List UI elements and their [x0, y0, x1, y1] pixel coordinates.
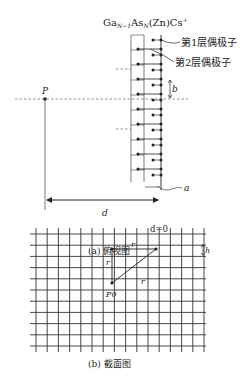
p0-label: P0	[105, 290, 116, 299]
cell-dividers	[131, 35, 144, 170]
caption-top-view: (a) 俯视图	[88, 245, 130, 256]
caption-cross-section: (b) 截面图	[88, 358, 131, 369]
point-p0	[110, 281, 113, 284]
cross-section: r r r P0 h (b) 截面图	[30, 228, 210, 369]
d-label: d	[102, 208, 108, 218]
r-top-label: r	[131, 240, 136, 249]
dipoles	[137, 39, 163, 177]
layer1-leader	[161, 40, 180, 43]
top-view: GaN−1AsN(Zn)Cs+ 第1层偶极子 第2层偶极子 b P d d=0	[15, 16, 237, 256]
material-formula: GaN−1AsN(Zn)Cs+	[103, 16, 188, 29]
layer1-dipole-label: 第1层偶极子	[181, 36, 237, 48]
b-label: b	[172, 84, 178, 94]
layer2-dipole-label: 第2层偶极子	[175, 56, 231, 68]
lattice-point	[110, 247, 113, 250]
lattice-point	[154, 247, 157, 250]
a-label: a	[184, 183, 189, 193]
r-left-label: r	[106, 258, 111, 267]
dipole-diagram: GaN−1AsN(Zn)Cs+ 第1层偶极子 第2层偶极子 b P d d=0	[0, 0, 250, 379]
h-label: h	[205, 246, 210, 255]
point-p-label: P	[41, 86, 49, 96]
